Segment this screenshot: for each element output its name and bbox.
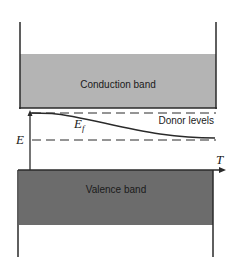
temperature-axis-arrowhead [219, 167, 226, 173]
valence-band [19, 170, 213, 225]
conduction-band-label: Conduction band [80, 79, 156, 90]
valence-band-label: Valence band [86, 184, 146, 195]
donor-levels-label: Donor levels [158, 115, 214, 126]
temperature-axis-label: T [216, 152, 224, 167]
energy-axis-label: E [15, 132, 24, 147]
band-diagram: Conduction band Donor levels Ef E T Vale… [0, 0, 236, 266]
